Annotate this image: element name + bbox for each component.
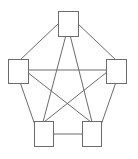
edge-top-bottomright bbox=[70, 35, 92, 122]
node-right bbox=[107, 60, 127, 84]
edge-left-bottomleft bbox=[20, 82, 36, 128]
nodes bbox=[9, 12, 127, 147]
edge-right-bottomright bbox=[100, 82, 116, 128]
edge-top-left bbox=[20, 23, 59, 60]
node-bottom-right bbox=[83, 122, 102, 147]
edges bbox=[20, 23, 116, 134]
edge-top-right bbox=[77, 23, 116, 60]
edge-top-bottomleft bbox=[43, 35, 66, 122]
edge-right-bottomleft bbox=[44, 72, 107, 122]
node-bottom-left bbox=[35, 122, 54, 147]
node-left bbox=[9, 60, 29, 84]
node-top bbox=[59, 12, 79, 37]
k5-graph-diagram bbox=[0, 0, 138, 159]
